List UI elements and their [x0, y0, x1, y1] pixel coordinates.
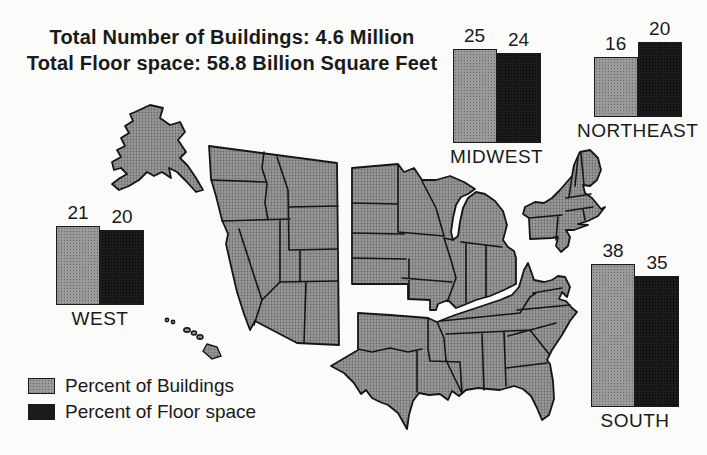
region-chart-northeast: 16 20 NORTHEAST [577, 19, 698, 142]
northeast-floorspace-bar [638, 42, 682, 117]
figure-buildings-floorspace-by-region: Total Number of Buildings: 4.6 Million T… [0, 0, 707, 455]
west-buildings-value: 21 [67, 203, 88, 223]
west-buildings-bar [56, 226, 100, 305]
title-line-floorspace: Total Floor space: 58.8 Billion Square F… [12, 50, 452, 76]
legend-item-buildings: Percent of Buildings [28, 373, 256, 399]
west-buildings-column: 21 [56, 203, 100, 305]
legend: Percent of Buildings Percent of Floor sp… [28, 373, 256, 425]
south-floorspace-value: 35 [646, 253, 667, 273]
region-chart-midwest: 25 24 MIDWEST [450, 26, 543, 168]
hawaii-islands-shape [165, 318, 221, 359]
midwest-region-label: MIDWEST [450, 146, 543, 168]
south-buildings-value: 38 [602, 241, 623, 261]
west-mainland-shape [209, 146, 339, 345]
west-floorspace-value: 20 [111, 207, 132, 227]
northeast-buildings-column: 16 [594, 34, 638, 117]
midwest-buildings-column: 25 [453, 26, 497, 143]
legend-label-floorspace: Percent of Floor space [65, 401, 256, 423]
south-buildings-bar [591, 264, 635, 407]
west-floorspace-bar [100, 230, 144, 305]
map-region-midwest [352, 164, 516, 310]
midwest-bars: 25 24 [453, 26, 541, 143]
northeast-region-label: NORTHEAST [577, 120, 698, 142]
northeast-buildings-bar [594, 57, 638, 117]
midwest-floorspace-bar [497, 53, 541, 143]
region-chart-south: 38 35 SOUTH [591, 241, 679, 432]
northeast-floorspace-column: 20 [638, 19, 682, 117]
midwest-floorspace-value: 24 [508, 30, 529, 50]
west-region-label: WEST [72, 308, 129, 330]
west-floorspace-column: 20 [100, 207, 144, 305]
legend-label-buildings: Percent of Buildings [65, 375, 234, 397]
south-floorspace-column: 35 [635, 253, 679, 407]
south-buildings-column: 38 [591, 241, 635, 407]
midwest-shape [352, 164, 516, 310]
northeast-floorspace-value: 20 [649, 19, 670, 39]
figure-title: Total Number of Buildings: 4.6 Million T… [12, 24, 452, 76]
south-region-label: SOUTH [601, 410, 670, 432]
midwest-buildings-value: 25 [464, 26, 485, 46]
south-floorspace-bar [635, 276, 679, 407]
midwest-buildings-bar [453, 49, 497, 143]
south-bars: 38 35 [591, 241, 679, 407]
legend-swatch-buildings [28, 378, 55, 394]
west-bars: 21 20 [56, 203, 144, 305]
legend-item-floorspace: Percent of Floor space [28, 399, 256, 425]
map-region-west [112, 105, 339, 359]
region-chart-west: 21 20 WEST [56, 203, 144, 330]
alaska-shape [112, 105, 203, 192]
northeast-buildings-value: 16 [605, 34, 626, 54]
title-line-buildings: Total Number of Buildings: 4.6 Million [12, 24, 452, 50]
northeast-bars: 16 20 [594, 19, 682, 117]
midwest-floorspace-column: 24 [497, 30, 541, 143]
legend-swatch-floorspace [28, 404, 55, 420]
